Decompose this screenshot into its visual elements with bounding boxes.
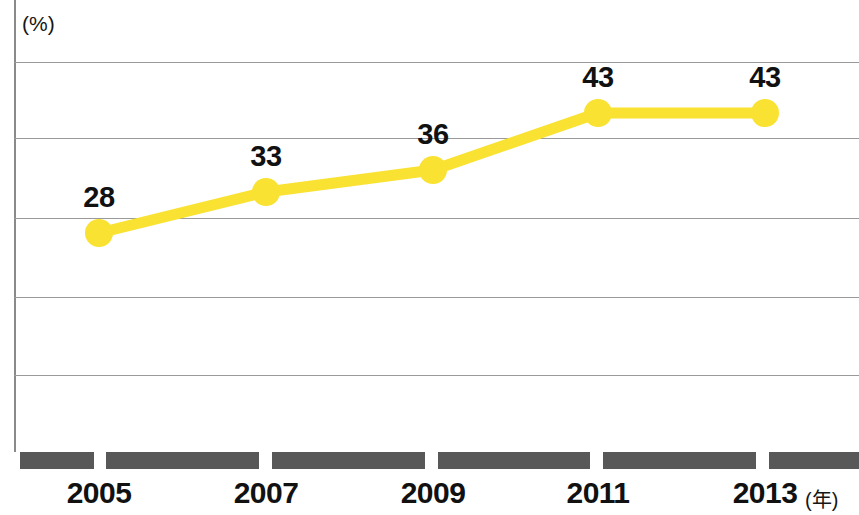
data-point-value-label: 33: [250, 140, 281, 173]
data-point-marker: [252, 178, 280, 206]
data-point-marker: [584, 99, 612, 127]
x-tick-label: 2013: [733, 476, 798, 510]
x-tick-label: 2007: [234, 476, 299, 510]
data-point-value-label: 43: [582, 61, 613, 94]
x-tick-label: 2005: [67, 476, 132, 510]
data-point-value-label: 28: [83, 181, 114, 214]
x-tick-label: 2009: [401, 476, 466, 510]
data-point-marker: [419, 156, 447, 184]
series-line-layer: [0, 0, 859, 515]
data-point-marker: [751, 99, 779, 127]
data-point-value-label: 36: [417, 118, 448, 151]
x-axis-unit-label: (年): [805, 484, 838, 513]
x-tick-label: 2011: [566, 476, 629, 510]
data-point-value-label: 43: [749, 61, 780, 94]
line-chart: (%) 2833364343 20052007200920112013 (年): [0, 0, 859, 515]
data-point-marker: [85, 219, 113, 247]
